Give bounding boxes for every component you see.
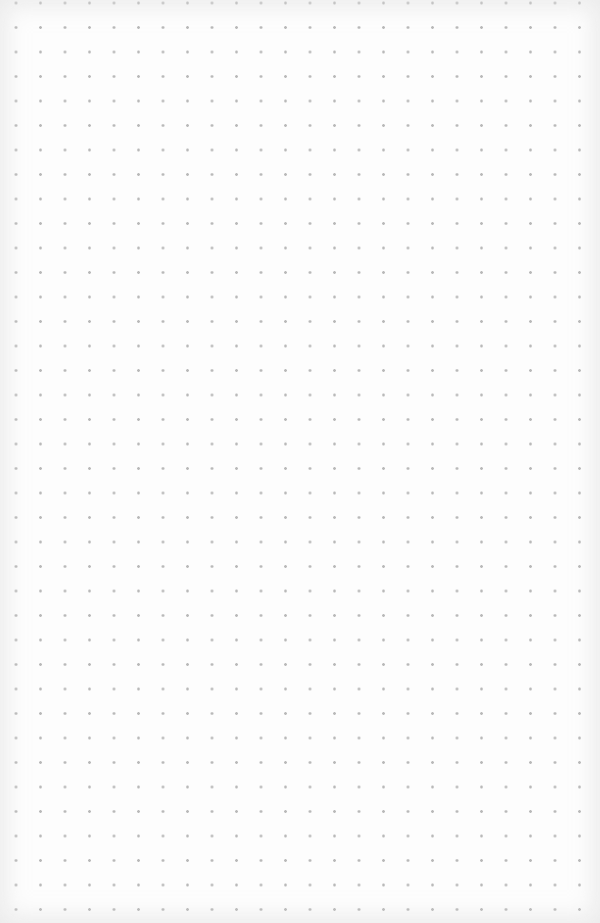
dot-grid-paper [0, 0, 600, 923]
edge-vignette [0, 0, 600, 923]
